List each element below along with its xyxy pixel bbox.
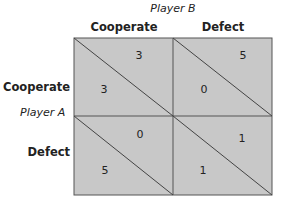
payoff-cd-player-b: 5 — [240, 49, 247, 62]
payoff-cc-player-b: 3 — [136, 49, 143, 62]
payoff-cd-player-a: 0 — [201, 83, 208, 96]
payoff-grid — [0, 0, 286, 206]
payoff-dd-player-a: 1 — [200, 164, 207, 177]
payoff-dc-player-a: 5 — [102, 164, 109, 177]
payoff-dd-player-b: 1 — [239, 132, 246, 145]
payoff-dc-player-b: 0 — [137, 128, 144, 141]
payoff-cc-player-a: 3 — [101, 83, 108, 96]
